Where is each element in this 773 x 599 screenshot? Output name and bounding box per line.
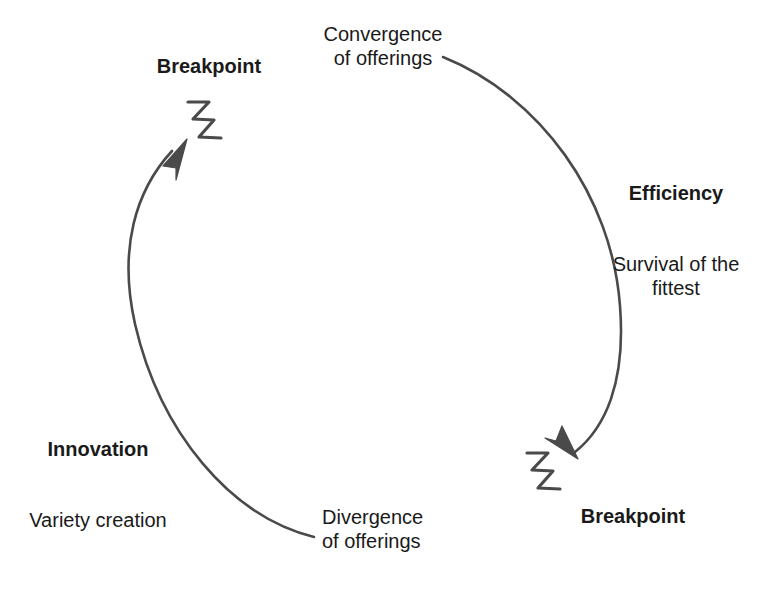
lightning-bolt-icon-bottom xyxy=(527,453,560,489)
breakpoint-label-bottom: Breakpoint xyxy=(528,505,738,529)
efficiency-title: Efficiency xyxy=(586,182,766,206)
innovation-title: Innovation xyxy=(6,438,190,462)
convergence-of-offerings-label: Convergence of offerings xyxy=(288,23,478,70)
breakpoint-cycle-diagram: Breakpoint Convergence of offerings Effi… xyxy=(0,0,773,599)
arrowhead-up-icon xyxy=(163,139,187,180)
innovation-label-group: Innovation Variety creation xyxy=(6,391,190,580)
breakpoint-label-top: Breakpoint xyxy=(98,55,320,79)
divergence-of-offerings-label: Divergence of offerings xyxy=(322,506,522,553)
innovation-subtitle: Variety creation xyxy=(6,509,190,533)
efficiency-label-group: Efficiency Survival of the fittest xyxy=(586,135,766,347)
lightning-bolt-icon-top xyxy=(188,102,221,138)
arrowhead-down-icon xyxy=(545,426,578,459)
efficiency-subtitle: Survival of the fittest xyxy=(586,253,766,300)
